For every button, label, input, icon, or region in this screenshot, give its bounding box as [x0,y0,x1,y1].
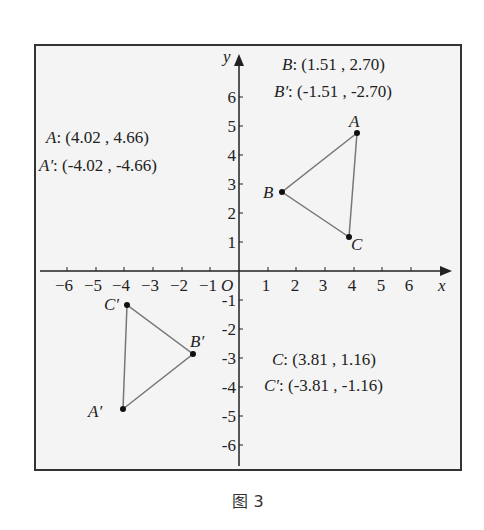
svg-text:-4: -4 [222,378,237,397]
y-axis-label: y [221,47,231,66]
svg-text:−4: −4 [112,276,131,295]
svg-text:C′: (-3.81 , -1.16): C′: (-3.81 , -1.16) [264,376,383,395]
point-b-prime [190,351,196,357]
point-a-prime [120,406,126,412]
svg-text:-2: -2 [222,320,236,339]
svg-text:−1: −1 [199,276,217,295]
svg-text:A: (4.02 , 4.66): A: (4.02 , 4.66) [45,128,149,147]
svg-text:−3: −3 [141,276,159,295]
coord-label-c: C: (3.81 , 1.16) [272,350,376,369]
svg-text:B: (1.51 , 2.70): B: (1.51 , 2.70) [282,55,385,74]
svg-text:5: 5 [377,276,386,295]
svg-text:-5: -5 [222,407,236,426]
coord-label-b-prime: B′: (-1.51 , -2.70) [274,82,392,101]
point-a-label: A [348,112,360,131]
svg-text:6: 6 [228,88,237,107]
svg-text:-3: -3 [222,349,236,368]
svg-text:4: 4 [348,276,357,295]
svg-text:2: 2 [291,276,300,295]
svg-text:B′: (-1.51 , -2.70): B′: (-1.51 , -2.70) [274,82,392,101]
point-c-label: C [351,235,363,254]
x-axis-label: x [437,276,446,295]
svg-text:−2: −2 [170,276,188,295]
point-c-prime-label: C′ [104,295,119,314]
svg-text:-1: -1 [222,291,236,310]
coord-label-b: B: (1.51 , 2.70) [282,55,385,74]
svg-text:3: 3 [228,175,237,194]
figure-caption: 图 3 [232,492,263,511]
svg-text:1: 1 [262,276,271,295]
point-b [279,189,285,195]
coordinate-figure: −6 −5 −4 −3 −2 −1 1 2 3 4 5 6 x y O 1 2 … [0,0,484,530]
coord-label-c-prime: C′: (-3.81 , -1.16) [264,376,383,395]
svg-text:4: 4 [228,146,237,165]
point-b-prime-label: B′ [190,332,204,351]
svg-text:5: 5 [228,117,237,136]
point-c-prime [124,302,130,308]
point-a-prime-label: A′ [87,402,102,421]
svg-text:A′: (-4.02 , -4.66): A′: (-4.02 , -4.66) [38,156,157,175]
coord-label-a: A: (4.02 , 4.66) [45,128,149,147]
coord-label-a-prime: A′: (-4.02 , -4.66) [38,156,157,175]
svg-text:−6: −6 [55,276,73,295]
svg-text:3: 3 [319,276,328,295]
point-b-label: B [263,183,274,202]
svg-text:C: (3.81 , 1.16): C: (3.81 , 1.16) [272,350,376,369]
svg-text:1: 1 [228,233,237,252]
svg-text:-6: -6 [222,436,236,455]
svg-text:2: 2 [228,204,237,223]
svg-text:6: 6 [405,276,414,295]
svg-text:−5: −5 [84,276,102,295]
